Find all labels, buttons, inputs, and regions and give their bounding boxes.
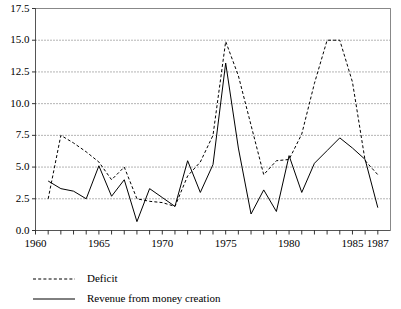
y-axis-ticks xyxy=(32,9,36,231)
y-tick-label-12.5: 12.5 xyxy=(10,65,30,77)
x-tick-label-1985: 1985 xyxy=(341,237,364,249)
x-tick-label-1975: 1975 xyxy=(215,237,238,249)
legend-label-0: Deficit xyxy=(87,272,118,284)
x-tick-label-1987: 1987 xyxy=(367,237,390,249)
gridlines-group xyxy=(36,9,391,199)
y-axis-labels: 0.02.55.07.510.012.515.017.5 xyxy=(10,2,30,236)
y-tick-label-7.5: 7.5 xyxy=(16,128,30,140)
chart-legend: DeficitRevenue from money creation xyxy=(33,272,221,304)
x-tick-label-1970: 1970 xyxy=(151,237,174,249)
x-axis-labels: 1960196519701975198019851987 xyxy=(25,237,390,249)
chart-figure: 0.02.55.07.510.012.515.017.5 19601965197… xyxy=(0,0,401,309)
y-tick-label-0.0: 0.0 xyxy=(16,224,30,236)
y-tick-label-15.0: 15.0 xyxy=(10,33,30,45)
x-tick-label-1965: 1965 xyxy=(88,237,111,249)
y-tick-label-17.5: 17.5 xyxy=(10,2,30,14)
y-tick-label-2.5: 2.5 xyxy=(16,192,30,204)
data-series-group xyxy=(48,40,378,221)
plot-frame xyxy=(36,9,391,231)
series-line-solid xyxy=(48,63,378,222)
legend-label-1: Revenue from money creation xyxy=(87,292,221,304)
x-tick-label-1980: 1980 xyxy=(278,237,301,249)
x-tick-label-1960: 1960 xyxy=(25,237,48,249)
x-axis-ticks xyxy=(36,231,378,235)
y-tick-label-5.0: 5.0 xyxy=(16,160,30,172)
line-chart: 0.02.55.07.510.012.515.017.5 19601965197… xyxy=(0,0,401,309)
y-tick-label-10.0: 10.0 xyxy=(10,97,30,109)
series-line-dashed xyxy=(48,40,378,206)
